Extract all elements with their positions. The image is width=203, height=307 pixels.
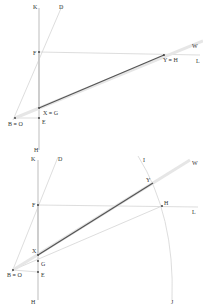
label-g: G — [41, 261, 46, 267]
bottom-diagram: K D I W Y F H L X G B ≡ O E H J — [7, 156, 198, 305]
label-w: W — [192, 160, 198, 166]
label-y: Y — [146, 177, 151, 183]
label-y-h: Y ≡ H — [163, 57, 178, 63]
segment-x-y — [38, 183, 153, 255]
point-x — [37, 254, 39, 256]
label-k: K — [31, 156, 36, 162]
label-d: D — [58, 156, 63, 162]
label-j: J — [171, 299, 174, 305]
label-x: X — [32, 248, 37, 254]
point-b — [14, 117, 16, 119]
label-h: H — [34, 147, 39, 153]
point-h — [161, 205, 163, 207]
point-f — [37, 204, 39, 206]
arc-i-j — [138, 156, 172, 300]
point-e — [37, 271, 39, 273]
label-e: E — [41, 272, 45, 278]
label-k: K — [33, 4, 38, 10]
label-h-point: H — [164, 200, 169, 206]
label-b-o: B ≡ O — [7, 272, 22, 278]
point-g — [37, 260, 39, 262]
label-f: F — [32, 202, 36, 208]
point-e — [38, 117, 40, 119]
geometry-construction-figure: K D F W Y ≡ H L X ≡ G B ≡ O E H K D I W … — [0, 0, 203, 307]
label-e: E — [42, 119, 46, 125]
top-diagram: K D F W Y ≡ H L X ≡ G B ≡ O E H — [8, 4, 203, 153]
point-x — [38, 107, 40, 109]
label-d: D — [59, 4, 64, 10]
label-w: W — [192, 43, 198, 49]
label-f: F — [33, 50, 37, 56]
label-i: I — [143, 157, 145, 163]
label-l: L — [196, 58, 200, 64]
point-b — [12, 269, 14, 271]
label-h: H — [31, 299, 36, 305]
line-b-h — [13, 206, 162, 270]
point-y — [163, 54, 165, 56]
label-b-o: B ≡ O — [8, 121, 23, 127]
label-l: L — [192, 209, 196, 215]
segment-x-y — [39, 55, 164, 108]
point-f — [38, 51, 40, 53]
label-x-g: X ≡ G — [43, 110, 59, 116]
